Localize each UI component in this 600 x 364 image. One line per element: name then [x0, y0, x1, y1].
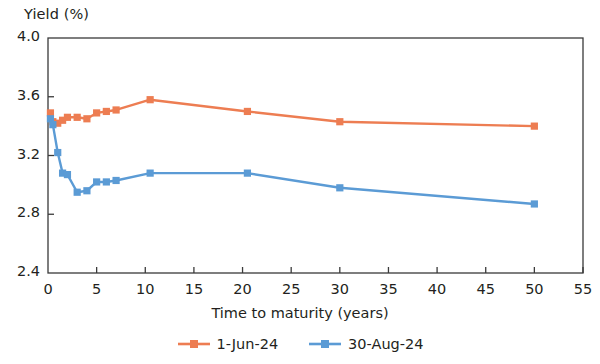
data-point-marker [103, 178, 110, 185]
data-point-marker [74, 114, 81, 121]
data-point-marker [93, 109, 100, 116]
x-tick-label: 0 [33, 281, 63, 297]
data-point-marker [83, 187, 90, 194]
x-tick-label: 50 [519, 281, 549, 297]
data-point-marker [83, 115, 90, 122]
x-tick-label: 35 [373, 281, 403, 297]
x-axis-title: Time to maturity (years) [0, 305, 600, 321]
y-tick-label: 3.2 [6, 146, 40, 162]
y-tick-label: 3.6 [6, 87, 40, 103]
data-point-marker [336, 184, 343, 191]
x-tick-label: 40 [422, 281, 452, 297]
data-point-marker [147, 170, 154, 177]
data-point-marker [54, 149, 61, 156]
y-tick-label: 2.8 [6, 204, 40, 220]
data-point-marker [531, 123, 538, 130]
legend-swatch-icon [177, 337, 211, 351]
data-point-marker [531, 200, 538, 207]
data-point-marker [336, 118, 343, 125]
x-tick-label: 5 [82, 281, 112, 297]
legend-swatch-icon [308, 337, 342, 351]
plot-area [0, 0, 600, 300]
legend-entry-series-1[interactable]: 1-Jun-24 [177, 336, 279, 352]
data-point-marker [244, 108, 251, 115]
x-tick-label: 20 [228, 281, 258, 297]
x-tick-label: 10 [130, 281, 160, 297]
data-point-marker [64, 114, 71, 121]
yield-curve-chart: Yield (%) Time to maturity (years) 1-Jun… [0, 0, 600, 364]
data-point-marker [112, 106, 119, 113]
data-point-marker [103, 108, 110, 115]
data-point-marker [147, 96, 154, 103]
x-tick-label: 15 [179, 281, 209, 297]
data-point-marker [93, 178, 100, 185]
legend-entry-series-2[interactable]: 30-Aug-24 [308, 336, 423, 352]
x-tick-label: 55 [568, 281, 598, 297]
data-point-marker [112, 177, 119, 184]
data-point-marker [244, 170, 251, 177]
x-tick-label: 30 [325, 281, 355, 297]
series-line-2 [47, 115, 538, 207]
data-point-marker [64, 171, 71, 178]
y-tick-label: 4.0 [6, 28, 40, 44]
legend-label-series-2: 30-Aug-24 [348, 336, 423, 352]
y-tick-label: 2.4 [6, 263, 40, 279]
legend-label-series-1: 1-Jun-24 [217, 336, 279, 352]
x-tick-label: 25 [276, 281, 306, 297]
data-point-marker [49, 121, 56, 128]
x-tick-label: 45 [471, 281, 501, 297]
series-line-1 [47, 96, 538, 130]
data-point-marker [74, 189, 81, 196]
chart-legend: 1-Jun-24 30-Aug-24 [0, 336, 600, 352]
